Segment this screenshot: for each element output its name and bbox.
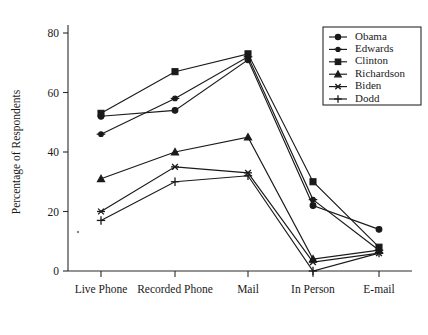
- legend-item-label: Edwards: [355, 42, 394, 54]
- y-axis-tick-label: 0: [53, 265, 59, 277]
- legend-marker-icon: [335, 34, 340, 39]
- stray-speck: [77, 231, 79, 233]
- data-point-marker: [172, 107, 178, 113]
- legend-item-label: Obama: [355, 30, 387, 42]
- y-axis-tick-label: 40: [48, 146, 60, 158]
- legend-item-label: Clinton: [355, 54, 389, 66]
- x-axis-tick-label: Live Phone: [75, 283, 128, 295]
- x-axis-tick-label: Recorded Phone: [137, 283, 213, 295]
- legend-marker-icon: [335, 59, 341, 65]
- chart-container: 020406080Live PhoneRecorded PhoneMailIn …: [0, 0, 428, 335]
- series-biden: [97, 164, 383, 265]
- legend-item-label: Richardson: [355, 67, 406, 79]
- y-axis-tick-label: 60: [48, 87, 60, 99]
- x-axis-tick-label: In Person: [291, 283, 335, 295]
- chart-legend: ObamaEdwardsClintonRichardsonBidenDodd: [323, 27, 421, 105]
- series-polyline: [101, 176, 379, 271]
- data-point-marker: [98, 110, 104, 116]
- legend-item-label: Dodd: [355, 92, 380, 104]
- x-axis-tick-label: Mail: [237, 283, 259, 295]
- data-point-marker: [244, 134, 251, 140]
- x-axis-tick-label: E-mail: [363, 283, 394, 295]
- series-richardson: [97, 134, 382, 262]
- data-point-marker: [172, 69, 178, 75]
- data-point-marker: [376, 226, 382, 232]
- y-axis-tick-label: 80: [48, 27, 60, 39]
- legend-item-label: Biden: [355, 79, 382, 91]
- data-point-marker: [310, 179, 316, 185]
- data-point-marker: [310, 203, 316, 209]
- y-axis-tick-label: 20: [48, 206, 60, 218]
- line-chart: 020406080Live PhoneRecorded PhoneMailIn …: [0, 0, 428, 335]
- y-axis-title: Percentage of Respondents: [10, 89, 23, 214]
- data-point-marker: [245, 51, 251, 57]
- series-dodd: [97, 172, 383, 276]
